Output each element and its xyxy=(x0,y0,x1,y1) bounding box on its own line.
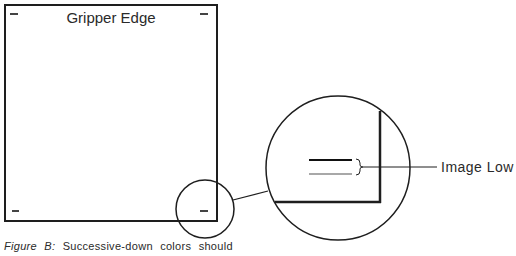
magnify-source-circle xyxy=(176,180,234,238)
figure-caption: Figure B: Successive-down colors should xyxy=(4,240,233,252)
magnify-connector-line xyxy=(233,191,268,200)
image-low-label: Image Low xyxy=(441,159,514,175)
figure-number: Figure B: xyxy=(4,240,55,252)
print-registration-diagram: Gripper Edge Image Low xyxy=(0,0,516,256)
magnified-detail-circle xyxy=(266,96,410,240)
gripper-edge-label: Gripper Edge xyxy=(66,9,155,26)
caption-text: Successive-down colors should xyxy=(63,240,233,252)
offset-bracket xyxy=(356,159,363,175)
